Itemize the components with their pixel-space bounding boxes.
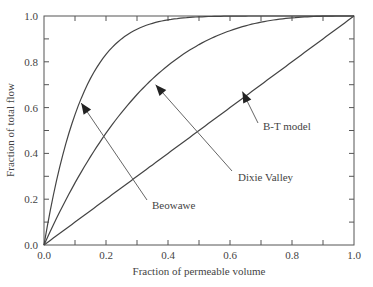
annotation-arrow	[81, 103, 147, 200]
y-tick-label: 0.8	[24, 56, 38, 68]
y-tick-label: 0.2	[24, 193, 38, 205]
x-axis-label: Fraction of permeable volume	[133, 265, 266, 277]
x-tick-label: 0.0	[37, 249, 51, 261]
chart: 0.00.20.40.60.81.00.00.20.40.60.81.0 Beo…	[0, 0, 373, 287]
arrowhead-icon	[81, 103, 91, 115]
x-tick-label: 0.6	[223, 249, 237, 261]
y-axis-label: Fraction of total flow	[4, 83, 16, 177]
y-tick-label: 1.0	[24, 10, 38, 22]
annotation-label: B-T model	[263, 120, 311, 132]
y-tick-label: 0.4	[24, 147, 38, 159]
chart-svg: 0.00.20.40.60.81.00.00.20.40.60.81.0 Beo…	[0, 0, 373, 287]
annotation-label: Beowawe	[152, 199, 195, 211]
x-tick-label: 0.8	[285, 249, 299, 261]
y-tick-label: 0.6	[24, 102, 38, 114]
y-tick-label: 0.0	[24, 239, 38, 251]
annotation-label: Dixie Valley	[238, 171, 294, 183]
x-tick-label: 0.4	[161, 249, 175, 261]
x-tick-label: 0.2	[99, 249, 113, 261]
annotation-arrow	[156, 85, 232, 171]
x-tick-label: 1.0	[347, 249, 361, 261]
